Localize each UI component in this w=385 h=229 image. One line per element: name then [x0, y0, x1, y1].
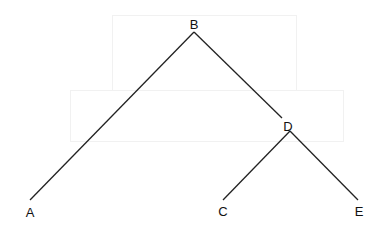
- edge-b-a: [30, 32, 194, 200]
- edge-d-e: [290, 131, 358, 200]
- edge-b-d: [194, 32, 282, 118]
- node-label-e: E: [355, 205, 364, 218]
- node-label-d: D: [283, 120, 292, 133]
- edge-d-c: [223, 131, 290, 200]
- node-label-b: B: [190, 18, 199, 31]
- node-label-c: C: [218, 205, 227, 218]
- node-label-a: A: [26, 206, 35, 219]
- tree-diagram: [0, 0, 385, 229]
